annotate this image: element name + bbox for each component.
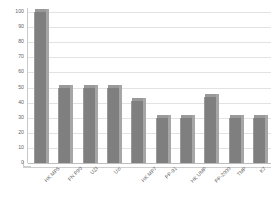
- bar[interactable]: [253, 118, 265, 163]
- bar-top-face: [157, 115, 168, 118]
- bar-slot: [149, 12, 173, 163]
- x-label-slot: HK UMP: [174, 164, 198, 204]
- bar-chart: 1009080706050403020100 HK MP5FN P90UZIUz…: [0, 0, 277, 207]
- bar-side-face: [192, 115, 195, 163]
- y-tick-label: 30: [18, 115, 24, 120]
- bar-side-face: [265, 115, 268, 163]
- bar-slot: [77, 12, 101, 163]
- bar-side-face: [168, 115, 171, 163]
- x-label-slot: TMP: [222, 164, 246, 204]
- bar-side-face: [143, 98, 146, 163]
- bar-top-face: [35, 9, 46, 12]
- bar[interactable]: [180, 118, 192, 163]
- bar-series: [28, 12, 271, 163]
- bar-top-face: [181, 115, 192, 118]
- y-tick-label: 90: [18, 24, 24, 29]
- x-tick-label: K7: [259, 166, 267, 174]
- x-label-slot: FN P90: [52, 164, 76, 204]
- x-axis-tick-labels: HK MP5FN P90UZIUziHK MP7PP-91HK UMPPP-20…: [28, 164, 271, 204]
- x-label-slot: K7: [247, 164, 271, 204]
- x-label-slot: PP-91: [149, 164, 173, 204]
- bar-side-face: [46, 9, 49, 163]
- bar[interactable]: [156, 118, 168, 163]
- y-tick-label: 40: [18, 100, 24, 105]
- x-label-slot: PP-2000: [198, 164, 222, 204]
- y-tick-label: 20: [18, 130, 24, 135]
- bar-slot: [198, 12, 222, 163]
- bar-top-face: [205, 94, 216, 97]
- bar-slot: [247, 12, 271, 163]
- bar-top-face: [254, 115, 265, 118]
- bar[interactable]: [204, 97, 216, 163]
- bar-side-face: [119, 85, 122, 164]
- bar[interactable]: [83, 88, 95, 164]
- bar-side-face: [241, 115, 244, 163]
- bar-side-face: [95, 85, 98, 164]
- bar-slot: [28, 12, 52, 163]
- plot-area: 1009080706050403020100: [28, 12, 271, 163]
- x-tick-label: Uzi: [113, 166, 122, 175]
- y-tick-label: 70: [18, 55, 24, 60]
- x-tick-label: TMP: [236, 166, 247, 177]
- bar-top-face: [84, 85, 95, 88]
- bar-side-face: [70, 85, 73, 164]
- bar-slot: [101, 12, 125, 163]
- bar-slot: [52, 12, 76, 163]
- bar[interactable]: [229, 118, 241, 163]
- bar-side-face: [216, 94, 219, 163]
- bar-slot: [174, 12, 198, 163]
- bar-top-face: [230, 115, 241, 118]
- bar[interactable]: [58, 88, 70, 164]
- y-tick-label: 60: [18, 70, 24, 75]
- y-tick-label: 0: [21, 160, 24, 165]
- bar[interactable]: [131, 101, 143, 163]
- bar[interactable]: [34, 12, 46, 163]
- y-tick-label: 10: [18, 145, 24, 150]
- x-label-slot: Uzi: [101, 164, 125, 204]
- y-tick-label: 80: [18, 40, 24, 45]
- bar-slot: [222, 12, 246, 163]
- bar-top-face: [59, 85, 70, 88]
- bar-top-face: [132, 98, 143, 101]
- y-tick-label: 50: [18, 85, 24, 90]
- x-label-slot: UZI: [77, 164, 101, 204]
- bar-top-face: [108, 85, 119, 88]
- x-label-slot: HK MP5: [28, 164, 52, 204]
- x-tick-label: UZI: [89, 166, 99, 176]
- bar-slot: [125, 12, 149, 163]
- y-tick-label: 100: [15, 9, 24, 14]
- x-label-slot: HK MP7: [125, 164, 149, 204]
- bar[interactable]: [107, 88, 119, 164]
